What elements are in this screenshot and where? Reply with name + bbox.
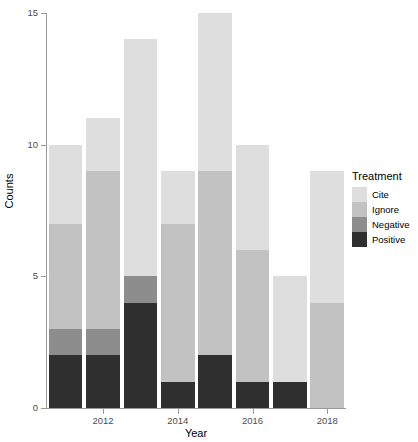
bar-segment-ignore[interactable] [310, 303, 344, 408]
bar-segment-cite[interactable] [49, 145, 83, 224]
x-axis-tick [253, 409, 254, 414]
legend-item-label: Cite [372, 189, 389, 200]
x-axis-tick-label: 2012 [83, 415, 123, 426]
bar-segment-cite[interactable] [124, 39, 158, 276]
y-axis-tick [41, 145, 46, 146]
bar-segment-negative[interactable] [49, 329, 83, 355]
bar-segment-ignore[interactable] [49, 224, 83, 329]
legend-item-label: Negative [372, 219, 410, 230]
bar-segment-negative[interactable] [86, 329, 120, 355]
legend-item-positive[interactable]: Positive [352, 232, 418, 247]
bar-segment-positive[interactable] [273, 382, 307, 408]
bar-group[interactable] [198, 13, 232, 408]
x-axis-tick [178, 409, 179, 414]
legend-swatch-icon [352, 202, 367, 217]
y-axis-tick [41, 276, 46, 277]
bar-segment-ignore[interactable] [198, 171, 232, 355]
legend-item-label: Ignore [372, 204, 399, 215]
bar-segment-cite[interactable] [273, 276, 307, 381]
bar-segment-positive[interactable] [236, 382, 270, 408]
bar-segment-positive[interactable] [49, 355, 83, 408]
plot-area [47, 13, 346, 408]
bar-segment-cite[interactable] [236, 145, 270, 250]
bar-group[interactable] [124, 13, 158, 408]
y-axis-tick [41, 13, 46, 14]
legend-item-negative[interactable]: Negative [352, 217, 418, 232]
x-axis-tick-label: 2018 [307, 415, 347, 426]
stacked-bar-chart-figure: Counts 051015 2012201420162018 Year Trea… [0, 0, 418, 442]
x-axis-line [46, 408, 346, 409]
bar-segment-ignore[interactable] [161, 224, 195, 382]
y-axis-tick-label: 5 [8, 270, 38, 281]
bar-group[interactable] [86, 13, 120, 408]
legend-items: CiteIgnoreNegativePositive [352, 187, 418, 247]
bar-group[interactable] [49, 13, 83, 408]
bar-segment-positive[interactable] [161, 382, 195, 408]
x-axis-tick-label: 2016 [233, 415, 273, 426]
bar-group[interactable] [161, 13, 195, 408]
bar-segment-cite[interactable] [161, 171, 195, 224]
legend: Treatment CiteIgnoreNegativePositive [352, 170, 418, 247]
bar-segment-ignore[interactable] [236, 250, 270, 382]
y-axis-title: Counts [3, 161, 15, 221]
bar-segment-positive[interactable] [86, 355, 120, 408]
bar-segment-ignore[interactable] [86, 171, 120, 329]
y-axis-tick-label: 0 [8, 402, 38, 413]
legend-title: Treatment [352, 170, 418, 182]
bar-segment-cite[interactable] [310, 171, 344, 303]
legend-swatch-icon [352, 232, 367, 247]
legend-item-cite[interactable]: Cite [352, 187, 418, 202]
bar-segment-cite[interactable] [86, 118, 120, 171]
bar-group[interactable] [236, 13, 270, 408]
bar-group[interactable] [310, 13, 344, 408]
y-axis-tick-label: 15 [8, 7, 38, 18]
legend-item-ignore[interactable]: Ignore [352, 202, 418, 217]
y-axis-tick-label: 10 [8, 139, 38, 150]
legend-item-label: Positive [372, 234, 405, 245]
bar-segment-positive[interactable] [124, 303, 158, 408]
legend-swatch-icon [352, 217, 367, 232]
x-axis-tick [327, 409, 328, 414]
bar-segment-negative[interactable] [124, 276, 158, 302]
x-axis-tick-label: 2014 [158, 415, 198, 426]
legend-swatch-icon [352, 187, 367, 202]
bar-segment-positive[interactable] [198, 355, 232, 408]
x-axis-title: Year [46, 427, 346, 439]
bar-group[interactable] [273, 13, 307, 408]
x-axis-tick [103, 409, 104, 414]
bar-segment-cite[interactable] [198, 13, 232, 171]
